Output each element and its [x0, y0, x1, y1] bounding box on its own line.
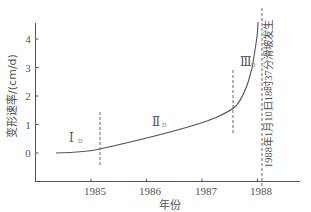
- svg-text:D: D: [78, 138, 83, 144]
- svg-text:D: D: [162, 122, 167, 128]
- x-tick-label: 1986: [139, 185, 162, 197]
- deformation-rate-curve: [56, 22, 258, 153]
- landslide-event-annotation: 1988年1月10日18时37分滑坡发生: [262, 20, 274, 168]
- deformation-rate-chart: 0 1 2 3 4 1985 1986 1987 1988 年份 变形速率/(c…: [0, 0, 311, 212]
- stage-label-2: Ⅱ D: [152, 115, 167, 129]
- y-tick-label: 0: [25, 147, 31, 159]
- x-tick-label: 1987: [195, 185, 218, 197]
- svg-text:Ⅰ: Ⅰ: [69, 131, 74, 145]
- axes: [35, 23, 300, 182]
- x-axis-label: 年份: [159, 198, 181, 212]
- y-tick-label: 4: [25, 33, 31, 45]
- y-ticks: 0 1 2 3 4: [25, 33, 38, 159]
- x-tick-label: 1988: [250, 185, 273, 197]
- svg-text:Ⅱ: Ⅱ: [152, 115, 160, 129]
- svg-text:Ⅲ: Ⅲ: [240, 55, 252, 69]
- svg-text:D: D: [251, 62, 256, 68]
- y-axis-label: 变形速率/(cm/d): [5, 54, 19, 138]
- stage-label-1: Ⅰ D: [69, 131, 83, 145]
- y-tick-label: 2: [25, 90, 31, 102]
- x-tick-label: 1985: [84, 185, 107, 197]
- y-tick-label: 3: [25, 62, 31, 74]
- y-tick-label: 1: [25, 119, 31, 131]
